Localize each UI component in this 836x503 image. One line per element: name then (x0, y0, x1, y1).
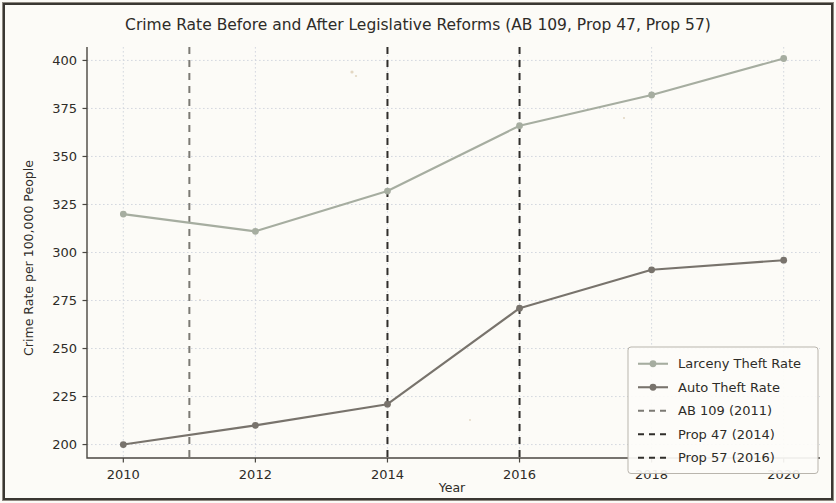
y-tick-label: 200 (52, 437, 77, 452)
y-tick-label: 225 (52, 389, 77, 404)
x-tick-label: 2016 (503, 467, 536, 482)
legend-label: Prop 57 (2016) (678, 450, 775, 465)
data-point-marker (648, 266, 655, 273)
data-point-marker (384, 188, 391, 195)
crime-rate-line-chart: Crime Rate Before and After Legislative … (0, 0, 836, 503)
data-point-marker (780, 55, 787, 62)
reform-vertical-lines (189, 47, 519, 458)
legend-label: Prop 47 (2014) (678, 427, 775, 442)
data-point-marker (648, 92, 655, 99)
legend-label: AB 109 (2011) (678, 403, 772, 418)
y-axis-label: Crime Rate per 100,000 People (21, 160, 36, 356)
y-tick-label: 300 (52, 245, 77, 260)
series-line (123, 59, 783, 232)
y-axis-ticks: 200225250275300325350375400 (52, 53, 87, 452)
data-point-marker (516, 305, 523, 312)
y-tick-label: 375 (52, 101, 77, 116)
y-tick-label: 400 (52, 53, 77, 68)
legend-label: Auto Theft Rate (678, 380, 780, 395)
data-point-marker (120, 441, 127, 448)
x-tick-label: 2010 (107, 467, 140, 482)
y-tick-label: 275 (52, 293, 77, 308)
data-point-marker (516, 122, 523, 129)
legend-sample-marker (650, 360, 657, 367)
y-tick-label: 250 (52, 341, 77, 356)
data-point-marker (120, 211, 127, 218)
data-point-marker (252, 422, 259, 429)
data-point-marker (384, 401, 391, 408)
chart-legend: Larceny Theft RateAuto Theft RateAB 109 … (628, 347, 818, 474)
x-tick-label: 2014 (371, 467, 404, 482)
x-tick-label: 2012 (239, 467, 272, 482)
scan-speckles (199, 70, 625, 421)
x-axis-label: Year (438, 480, 466, 495)
legend-sample-marker (650, 384, 657, 391)
chart-title: Crime Rate Before and After Legislative … (125, 16, 711, 34)
data-point-marker (780, 257, 787, 264)
scanned-chart-page: Crime Rate Before and After Legislative … (0, 0, 836, 503)
data-point-marker (252, 228, 259, 235)
y-tick-label: 350 (52, 149, 77, 164)
y-tick-label: 325 (52, 197, 77, 212)
legend-label: Larceny Theft Rate (678, 356, 801, 371)
